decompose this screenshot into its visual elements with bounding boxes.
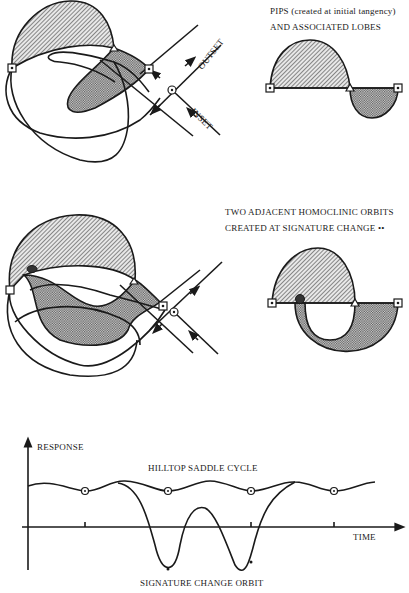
panel1-lobe-diagram [266,40,402,118]
diagram-canvas [0,0,409,593]
signature-change-orbit [118,482,295,570]
panel2-lobe-diagram [268,248,402,351]
panel2-phase-portrait [6,215,222,376]
hilltop-saddle-cycle-label: HILLTOP SADDLE CYCLE [148,463,258,473]
signature-change-orbit-label: SIGNATURE CHANGE ORBIT [140,578,263,588]
response-axis-label: RESPONSE [37,442,84,452]
panel1-title-line1: PIPS (created at initial tangency) [270,6,396,16]
time-axis-label: TIME [353,532,376,542]
panel2-title-line1: TWO ADJACENT HOMOCLINIC ORBITS [225,207,394,217]
panel1-title-line2: AND ASSOCIATED LOBES [270,22,381,32]
panel2-title-line2: CREATED AT SIGNATURE CHANGE •• [225,223,385,233]
stippled-lobe [67,48,149,112]
panel3-time-series [22,442,400,571]
hilltop-saddle-cycle [28,481,375,491]
panel1-phase-portrait [6,1,221,162]
